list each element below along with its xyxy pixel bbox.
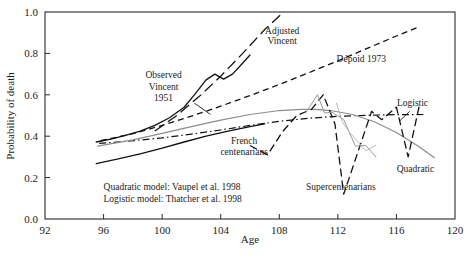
annotation-label: Observed bbox=[145, 70, 182, 80]
mortality-probability-chart: 92961001041081121161200.00.20.40.60.81.0… bbox=[0, 0, 469, 259]
series-supercentenarians-light bbox=[336, 103, 376, 151]
annotation-label: Logistic bbox=[397, 98, 428, 108]
chart-annotations: AdjustedVincentObservedVincent1951Dépoid… bbox=[104, 26, 435, 204]
data-series bbox=[96, 12, 434, 194]
annotation-label: Vincent bbox=[149, 82, 179, 92]
y-axis-title: Probability of death bbox=[4, 72, 16, 160]
annotation-label: French bbox=[231, 136, 258, 146]
leader-line bbox=[399, 111, 409, 121]
x-tick-label: 104 bbox=[212, 224, 229, 236]
x-tick-label: 100 bbox=[154, 224, 171, 236]
x-axis-title: Age bbox=[241, 233, 259, 245]
series-observed-vincent-1951 bbox=[96, 55, 250, 142]
annotation-label: Dépoid 1973 bbox=[337, 54, 387, 64]
annotation-label: Quadratic bbox=[397, 164, 434, 174]
tick-labels: 92961001041081121161200.00.20.40.60.81.0 bbox=[24, 6, 464, 236]
x-tick-label: 92 bbox=[40, 224, 51, 236]
series-supercentenarians bbox=[250, 95, 420, 194]
series-logistic bbox=[99, 114, 426, 143]
x-tick-label: 116 bbox=[388, 224, 405, 236]
x-tick-label: 108 bbox=[271, 224, 288, 236]
y-tick-label: 0.6 bbox=[24, 89, 38, 101]
x-tick-label: 112 bbox=[330, 224, 346, 236]
annotation-label: Quadratic model: Vaupel et al. 1998 bbox=[104, 182, 241, 192]
annotation-label: Logistic model: Thatcher et al. 1998 bbox=[104, 194, 242, 204]
x-tick-label: 120 bbox=[447, 224, 464, 236]
x-tick-label: 96 bbox=[98, 224, 110, 236]
y-tick-label: 1.0 bbox=[24, 6, 38, 18]
y-tick-label: 0.4 bbox=[24, 130, 38, 142]
y-tick-label: 0.2 bbox=[24, 172, 38, 184]
annotation-label: 1951 bbox=[154, 93, 173, 103]
annotation-label: centenarians bbox=[220, 147, 268, 157]
y-tick-label: 0.8 bbox=[24, 47, 38, 59]
y-tick-label: 0.0 bbox=[24, 213, 38, 225]
annotation-label: Supercentenarians bbox=[306, 182, 376, 192]
chart-figure: 92961001041081121161200.00.20.40.60.81.0… bbox=[0, 0, 469, 259]
annotation-label: Adjusted bbox=[265, 26, 300, 36]
annotation-label: Vincent bbox=[267, 36, 297, 46]
